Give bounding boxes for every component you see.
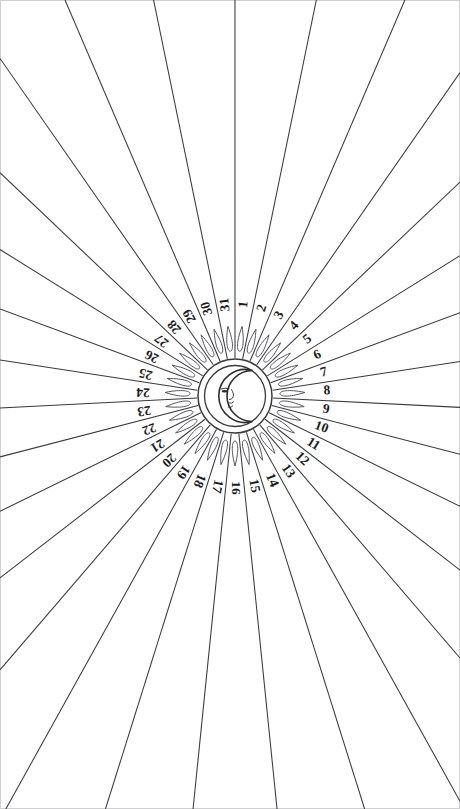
ray-line (6, 429, 217, 809)
day-number-label: 29 (179, 306, 199, 325)
petal-ornament (207, 437, 218, 460)
day-number-label: 22 (140, 420, 158, 439)
petal-ornament (221, 440, 228, 465)
day-number-label: 27 (151, 331, 171, 351)
day-number-label: 13 (279, 461, 299, 481)
day-number-label: 2 (253, 302, 269, 313)
petal-ornament (252, 437, 263, 460)
ray-line (253, 429, 460, 801)
day-number-label: 3 (270, 308, 287, 321)
petal-ornament (167, 378, 191, 386)
petal-ornament (165, 391, 190, 397)
ray-line (265, 419, 460, 570)
ray-line (0, 173, 207, 370)
radial-dial-figure: 1234567891011121314151617181920212223242… (0, 0, 460, 809)
day-number-label: 23 (136, 403, 152, 420)
day-number-label: 25 (137, 365, 154, 383)
ray-line (260, 425, 460, 658)
petal-ornament (232, 441, 237, 466)
petal-ornament (237, 326, 243, 351)
day-number-label: 9 (322, 401, 331, 417)
ray-line (271, 313, 460, 383)
ray-line (250, 0, 405, 361)
day-number-label: 24 (136, 385, 150, 401)
petal-ornament (256, 335, 269, 357)
day-number-label: 31 (216, 297, 232, 312)
day-number-label: 19 (173, 462, 193, 482)
petal-ornament (227, 326, 233, 351)
day-number-label: 21 (148, 436, 168, 456)
moon-eye (222, 390, 228, 393)
day-number-label: 30 (197, 300, 215, 318)
day-number-label: 6 (311, 346, 324, 363)
day-number-label: 14 (263, 471, 282, 490)
center-hub-group (198, 359, 272, 433)
ray-line (263, 182, 460, 370)
day-number-label: 5 (300, 330, 315, 346)
day-number-label: 17 (209, 478, 226, 494)
day-number-label: 8 (323, 382, 331, 397)
ray-line (0, 419, 205, 578)
ray-line (0, 360, 197, 390)
day-number-label: 10 (313, 417, 331, 436)
day-number-label: 7 (319, 363, 330, 379)
petal-ornament (166, 401, 191, 407)
petal-ornament (172, 365, 195, 377)
ray-line (273, 362, 460, 391)
day-number-label: 16 (229, 481, 244, 495)
day-number-label: 28 (164, 317, 184, 337)
day-number-label: 15 (246, 478, 263, 494)
day-number-label: 1 (235, 300, 251, 308)
dial-page: 1234567891011121314151617181920212223242… (0, 0, 460, 809)
petal-ornament (242, 440, 249, 465)
ray-line (0, 309, 199, 383)
day-number-label: 12 (293, 448, 313, 468)
petal-ornament (280, 391, 305, 397)
petal-ornament (201, 335, 214, 357)
day-number-label: 20 (159, 450, 179, 470)
ray-line (0, 406, 198, 457)
petal-ornament (279, 401, 304, 407)
day-number-label: 4 (286, 318, 302, 333)
petal-ornament (275, 365, 298, 377)
day-number-label: 26 (142, 347, 161, 367)
day-number-label: 11 (304, 434, 323, 454)
petal-ornament (279, 378, 303, 386)
